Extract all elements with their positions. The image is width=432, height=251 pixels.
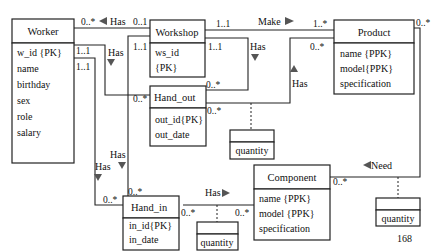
multiplicity: 1..1	[208, 42, 223, 52]
assoc-label: Make	[258, 16, 281, 27]
class-component[interactable]: Component name {PPK} model {PPK} specifi…	[254, 165, 330, 240]
triangle-down-icon	[107, 59, 115, 66]
assoc-workshop-handin	[128, 36, 150, 196]
class-workshop[interactable]: Workshop ws_id {PK}	[150, 20, 205, 77]
attribute: {PK}	[155, 62, 177, 73]
attribute: quantity	[382, 213, 415, 224]
assoc-class-handin-quantity[interactable]: quantity	[197, 222, 238, 250]
multiplicity: 0..*	[181, 208, 196, 218]
assoc-label: Has	[110, 149, 126, 160]
attribute: birthday	[17, 79, 50, 90]
triangle-down-icon	[118, 162, 126, 169]
class-title: Worker	[27, 26, 59, 37]
class-title: Component	[268, 172, 317, 183]
multiplicity: 1..1	[76, 62, 91, 72]
triangle-right-icon	[285, 17, 294, 25]
triangle-down-icon	[251, 54, 259, 61]
attribute: w_id {PK}	[17, 47, 62, 58]
class-hand-in[interactable]: Hand_in in_id{PK} in_date	[123, 196, 179, 250]
multiplicity: 1..*	[313, 19, 328, 29]
attribute: model {PPK}	[259, 208, 314, 219]
multiplicity: 0..*	[133, 94, 148, 104]
attribute: in_id{PK}	[129, 220, 172, 231]
multiplicity: 0..*	[81, 17, 96, 27]
multiplicity: 0..*	[310, 42, 325, 52]
attribute: name	[17, 63, 39, 74]
class-product[interactable]: Product name {PPK} model{PPK} specificat…	[334, 20, 414, 94]
attribute: name {PPK}	[259, 193, 311, 204]
attribute: out_date	[155, 129, 190, 140]
class-title: Workshop	[156, 27, 199, 38]
assoc-label: Has	[250, 41, 266, 52]
assoc-label: Has	[95, 161, 111, 172]
assoc-label: Has	[292, 78, 308, 89]
assoc-class-need-quantity[interactable]: quantity	[376, 198, 420, 226]
multiplicity: 0..*	[128, 187, 143, 197]
class-title: Hand_out	[154, 92, 195, 103]
assoc-label: Has	[108, 47, 124, 58]
multiplicity: 0..*	[103, 195, 118, 205]
attribute: quantity	[236, 145, 269, 156]
assoc-label: Has	[205, 187, 221, 198]
attribute: quantity	[201, 237, 234, 248]
triangle-left-icon	[99, 17, 107, 25]
multiplicity: 0..*	[207, 106, 222, 116]
attribute: sex	[17, 95, 30, 106]
attribute: specification	[259, 223, 310, 234]
class-worker[interactable]: Worker w_id {PK} name birthday sex role …	[12, 19, 74, 163]
multiplicity: 0..1	[133, 17, 148, 27]
assoc-worker-handin	[74, 58, 128, 205]
assoc-label: Has	[110, 16, 126, 27]
attribute: model{PPK}	[340, 63, 393, 74]
attribute: salary	[17, 127, 41, 138]
multiplicity: 1..1	[133, 42, 148, 52]
multiplicity: 1..1	[216, 19, 231, 29]
assoc-class-handout-quantity[interactable]: quantity	[230, 130, 274, 159]
class-title: Product	[358, 27, 391, 38]
attribute: out_id{PK}	[155, 114, 203, 125]
multiplicity: 1..1	[76, 46, 91, 56]
multiplicity: 0..*	[333, 177, 348, 187]
triangle-right-icon	[222, 189, 230, 197]
triangle-left-icon	[363, 161, 371, 169]
attribute: role	[17, 111, 33, 122]
uml-class-diagram: Worker w_id {PK} name birthday sex role …	[0, 0, 432, 251]
multiplicity: 0..*	[416, 18, 431, 28]
assoc-label: Need	[371, 160, 392, 171]
multiplicity: 0..*	[235, 208, 250, 218]
class-hand-out[interactable]: Hand_out out_id{PK} out_date	[150, 86, 206, 146]
class-title: Hand_in	[131, 202, 168, 213]
multiplicity: 0..*	[206, 80, 221, 90]
attribute: ws_id	[155, 47, 179, 58]
assoc-handout-product	[205, 38, 352, 103]
attribute: in_date	[129, 234, 159, 245]
attribute: name {PPK}	[340, 48, 392, 59]
triangle-up-icon	[290, 65, 298, 72]
attribute: specification	[340, 78, 391, 89]
page-number: 168	[397, 233, 412, 244]
